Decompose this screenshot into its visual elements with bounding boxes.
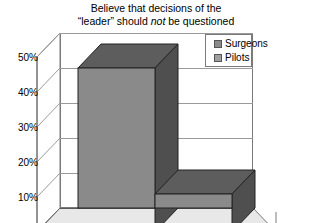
legend-swatch-pilots — [214, 54, 222, 62]
chart-container: Believe that decisions of the “leader” s… — [0, 0, 312, 223]
bars-group — [0, 0, 312, 223]
legend-label-surgeons: Surgeons — [225, 39, 268, 49]
legend-label-pilots: Pilots — [225, 53, 249, 63]
legend-swatch-surgeons — [214, 40, 222, 48]
legend-item-pilots[interactable]: Pilots — [214, 51, 251, 65]
legend: Surgeons Pilots — [205, 34, 252, 67]
legend-item-surgeons[interactable]: Surgeons — [214, 37, 251, 51]
